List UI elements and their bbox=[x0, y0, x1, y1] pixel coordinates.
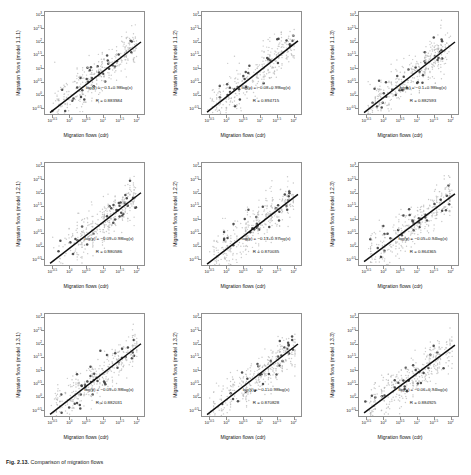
data-point bbox=[291, 364, 292, 365]
data-point bbox=[258, 207, 259, 208]
x-tick-mark bbox=[366, 417, 367, 420]
data-point bbox=[239, 103, 240, 104]
data-point bbox=[388, 383, 389, 384]
data-point bbox=[436, 197, 437, 198]
data-point bbox=[415, 56, 416, 57]
x-tick-mark bbox=[383, 266, 384, 269]
data-point bbox=[99, 92, 100, 93]
data-point bbox=[294, 375, 295, 376]
data-point bbox=[133, 186, 134, 187]
data-point bbox=[258, 211, 259, 212]
data-point bbox=[449, 176, 450, 177]
data-point bbox=[110, 62, 111, 63]
data-point bbox=[74, 81, 75, 82]
data-point bbox=[132, 337, 133, 338]
data-point bbox=[383, 241, 384, 242]
data-point bbox=[445, 63, 446, 64]
data-point bbox=[427, 372, 428, 373]
data-point bbox=[118, 351, 119, 352]
data-point bbox=[115, 205, 116, 206]
data-point bbox=[133, 335, 134, 336]
x-tick-mark bbox=[451, 115, 452, 118]
data-point bbox=[435, 357, 436, 358]
data-point bbox=[59, 261, 60, 262]
data-point bbox=[434, 46, 435, 47]
x-tick-mark bbox=[366, 266, 367, 269]
data-point bbox=[77, 225, 78, 226]
y-tick-mark bbox=[198, 219, 201, 220]
x-tick-mark bbox=[137, 115, 138, 118]
data-point bbox=[433, 212, 434, 213]
data-point bbox=[382, 227, 383, 228]
data-point bbox=[133, 225, 134, 226]
x-tick-mark bbox=[294, 417, 295, 420]
data-point bbox=[412, 370, 413, 371]
data-point bbox=[268, 383, 269, 384]
data-point bbox=[118, 215, 121, 218]
data-point bbox=[288, 41, 289, 42]
data-point bbox=[271, 48, 272, 49]
data-point bbox=[85, 78, 88, 81]
data-point bbox=[245, 226, 246, 227]
data-point bbox=[265, 198, 266, 199]
data-point bbox=[374, 387, 375, 388]
data-point bbox=[102, 244, 103, 245]
data-point bbox=[398, 229, 399, 230]
y-tick-mark bbox=[41, 357, 44, 358]
data-point bbox=[265, 60, 266, 61]
data-point bbox=[104, 206, 105, 207]
data-point bbox=[133, 41, 134, 42]
data-point bbox=[415, 380, 416, 381]
data-point bbox=[433, 200, 434, 201]
data-point bbox=[425, 347, 426, 348]
data-point bbox=[234, 81, 235, 82]
x-tick-mark bbox=[103, 417, 104, 420]
data-point bbox=[410, 73, 411, 74]
data-point bbox=[64, 86, 65, 87]
data-point bbox=[98, 94, 99, 95]
data-point bbox=[276, 69, 277, 70]
data-point bbox=[212, 112, 213, 113]
data-point bbox=[255, 69, 256, 70]
data-point bbox=[434, 62, 435, 63]
data-point bbox=[84, 381, 85, 382]
data-point bbox=[245, 231, 246, 232]
data-point bbox=[270, 382, 271, 383]
data-point bbox=[92, 377, 93, 378]
data-point bbox=[434, 42, 435, 43]
data-point bbox=[126, 193, 127, 194]
data-point bbox=[271, 58, 272, 59]
data-point bbox=[115, 57, 116, 58]
data-point bbox=[404, 393, 405, 394]
data-point bbox=[437, 359, 438, 360]
data-point bbox=[108, 63, 109, 64]
data-point bbox=[213, 254, 214, 255]
data-point bbox=[77, 228, 78, 229]
data-point bbox=[422, 364, 423, 365]
data-point bbox=[388, 396, 389, 397]
data-point bbox=[57, 250, 60, 253]
data-point bbox=[276, 379, 277, 380]
data-point bbox=[230, 381, 231, 382]
data-point bbox=[407, 69, 408, 70]
data-point bbox=[412, 396, 413, 397]
data-point bbox=[405, 369, 406, 370]
data-point bbox=[122, 218, 123, 219]
data-point bbox=[98, 70, 99, 71]
data-point bbox=[451, 351, 452, 352]
x-tick-label: 101 bbox=[94, 118, 112, 123]
data-point bbox=[115, 70, 116, 71]
data-point bbox=[234, 233, 235, 234]
data-point bbox=[121, 59, 122, 60]
data-point bbox=[257, 233, 258, 234]
data-point bbox=[420, 229, 421, 230]
data-point bbox=[384, 413, 385, 414]
data-point bbox=[220, 111, 221, 112]
data-point bbox=[275, 368, 276, 369]
data-point bbox=[412, 372, 413, 373]
data-point bbox=[430, 354, 431, 355]
y-tick-mark bbox=[41, 410, 44, 411]
data-point bbox=[214, 92, 215, 93]
data-point bbox=[126, 57, 127, 58]
data-point bbox=[118, 355, 119, 356]
